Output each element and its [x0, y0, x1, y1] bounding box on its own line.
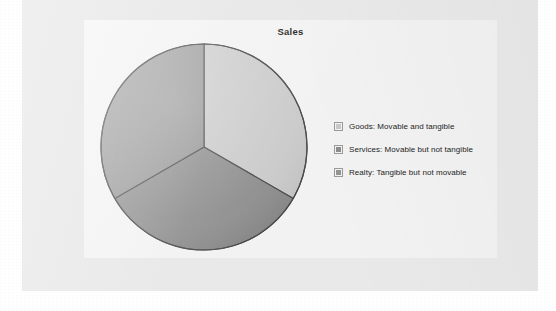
chart-title: Sales: [84, 26, 497, 37]
pie-shading: [101, 44, 307, 250]
chart-panel: Sales: [84, 20, 497, 258]
legend-item-services[interactable]: Services: Movable but not tangible: [334, 138, 499, 161]
legend-label-goods: Goods: Movable and tangible: [349, 122, 454, 131]
document-page: Sales: [22, 0, 538, 291]
legend-swatch-goods: [334, 122, 343, 131]
chart-legend: Goods: Movable and tangible Services: Mo…: [334, 115, 499, 184]
pie-chart-svg: [99, 42, 309, 252]
legend-item-goods[interactable]: Goods: Movable and tangible: [334, 115, 499, 138]
pie-chart: [99, 42, 309, 252]
legend-swatch-services: [334, 145, 343, 154]
legend-label-services: Services: Movable but not tangible: [349, 145, 473, 154]
legend-item-realty[interactable]: Realty: Tangible but not movable: [334, 161, 499, 184]
legend-label-realty: Realty: Tangible but not movable: [349, 168, 467, 177]
legend-swatch-realty: [334, 168, 343, 177]
